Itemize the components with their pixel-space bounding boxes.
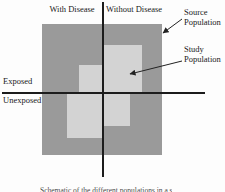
study-population-rect-exposed-with-disease: [79, 65, 103, 93]
figure-caption-cropped: Schematic of the different populations i…: [40, 186, 172, 192]
row-label-exposed: Exposed: [3, 77, 32, 87]
disease-axis-divider-line: [102, 2, 104, 177]
study-population-rect-exposed-without-disease: [104, 45, 142, 93]
study-population-callout-label: Study Population: [184, 44, 225, 64]
row-label-unexposed: Unexposed: [3, 96, 41, 106]
study-population-rect-unexposed-with-disease: [67, 94, 103, 138]
column-label-with-disease: With Disease: [42, 5, 102, 15]
exposure-axis-divider-line: [2, 92, 205, 94]
source-population-arrow: [163, 19, 182, 33]
population-diagram: With Disease Without Disease Exposed Une…: [0, 0, 225, 192]
study-population-rect-unexposed-without-disease: [104, 94, 130, 126]
column-label-without-disease: Without Disease: [106, 5, 162, 15]
source-population-callout-label: Source Population: [184, 7, 225, 27]
